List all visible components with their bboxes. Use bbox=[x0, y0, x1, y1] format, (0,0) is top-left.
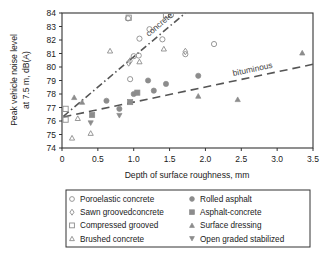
y-axis-title-line2: at 7.5 m, dB(A) bbox=[21, 51, 31, 109]
data-point-open-graded-stabilized bbox=[117, 113, 122, 118]
legend-label: Asphalt-concrete bbox=[200, 208, 262, 217]
y-axis-ticks: 7475767778798081828384 bbox=[47, 8, 62, 153]
y-tick-label: 79 bbox=[47, 76, 57, 86]
data-point-brushed-concrete bbox=[137, 59, 142, 64]
legend-marker-filled-circle bbox=[190, 197, 195, 202]
y-tick-label: 75 bbox=[47, 130, 57, 140]
data-point-poroelastic-concrete bbox=[136, 53, 141, 58]
data-point-rolled-asphalt bbox=[117, 106, 122, 111]
x-tick-label: 1.0 bbox=[128, 154, 140, 164]
y-tick-label: 77 bbox=[47, 103, 57, 113]
x-tick-label: 2.0 bbox=[200, 154, 212, 164]
data-point-rolled-asphalt bbox=[104, 98, 109, 103]
data-point-brushed-concrete bbox=[88, 131, 93, 136]
trendline-label-bituminous: bituminous bbox=[232, 60, 274, 78]
data-point-surface-dressing bbox=[79, 100, 84, 105]
data-point-poroelastic-concrete bbox=[211, 41, 216, 46]
legend-marker-open-diamond bbox=[70, 209, 74, 215]
y-tick-label: 74 bbox=[47, 143, 57, 153]
legend-label: Open graded stabilized bbox=[200, 235, 285, 244]
trendlines bbox=[63, 13, 313, 117]
legend-label: Rolled asphalt bbox=[200, 195, 253, 204]
data-point-compressed-grooved bbox=[63, 117, 68, 122]
data-point-surface-dressing bbox=[235, 97, 240, 102]
legend-marker-open-square bbox=[70, 223, 75, 228]
data-point-brushed-concrete bbox=[75, 116, 80, 121]
trendline-bituminous bbox=[63, 64, 313, 117]
data-point-surface-dressing bbox=[72, 95, 77, 100]
data-point-poroelastic-concrete bbox=[160, 37, 165, 42]
y-tick-label: 76 bbox=[47, 116, 57, 126]
data-point-rolled-asphalt bbox=[151, 88, 156, 93]
legend-items: Poroelastic concreteRolled asphaltSawn g… bbox=[70, 195, 285, 244]
x-axis-title: Depth of surface roughness, mm bbox=[125, 170, 250, 180]
data-point-asphalt-concrete bbox=[90, 112, 95, 117]
y-tick-label: 84 bbox=[47, 8, 57, 18]
trendline-labels: concretebituminous bbox=[144, 10, 274, 78]
x-tick-label: 2.5 bbox=[235, 154, 247, 164]
legend-marker-filled-triangle-up bbox=[190, 223, 195, 227]
y-tick-label: 83 bbox=[47, 22, 57, 32]
x-tick-label: 3.0 bbox=[271, 154, 283, 164]
y-tick-label: 81 bbox=[47, 49, 57, 59]
data-point-open-graded-stabilized bbox=[88, 121, 93, 126]
data-point-brushed-concrete bbox=[69, 135, 74, 140]
data-point-surface-dressing bbox=[196, 94, 201, 99]
y-axis-title-line1: Peak vehicle noise level bbox=[9, 34, 19, 126]
x-tick-label: 0 bbox=[60, 154, 65, 164]
legend-label: Poroelastic concrete bbox=[80, 195, 155, 204]
legend-label: Surface dressing bbox=[200, 221, 262, 230]
chart-figure: Peak vehicle noise level at 7.5 m, dB(A)… bbox=[0, 0, 326, 253]
data-points bbox=[63, 12, 305, 140]
y-tick-label: 82 bbox=[47, 35, 57, 45]
x-axis-ticks: 00.51.01.52.02.53.03.5 bbox=[60, 148, 320, 164]
legend-marker-filled-square bbox=[190, 210, 195, 215]
data-point-poroelastic-concrete bbox=[128, 77, 133, 82]
plot-frame bbox=[62, 13, 313, 148]
data-point-rolled-asphalt bbox=[196, 73, 201, 78]
legend-marker-open-circle bbox=[70, 197, 75, 202]
legend-marker-filled-triangle-down bbox=[190, 237, 195, 241]
data-point-asphalt-concrete bbox=[135, 90, 140, 95]
data-point-brushed-concrete bbox=[107, 48, 112, 53]
data-point-brushed-concrete bbox=[161, 46, 166, 51]
scatter-chart: Peak vehicle noise level at 7.5 m, dB(A)… bbox=[0, 0, 326, 253]
x-tick-label: 3.5 bbox=[307, 154, 319, 164]
legend-marker-open-triangle-up bbox=[70, 236, 75, 240]
legend-label: Sawn groovedconcrete bbox=[80, 208, 164, 217]
data-point-rolled-asphalt bbox=[163, 81, 168, 86]
y-tick-label: 80 bbox=[47, 62, 57, 72]
y-tick-label: 78 bbox=[47, 89, 57, 99]
legend-label: Compressed grooved bbox=[80, 221, 159, 230]
data-point-poroelastic-concrete bbox=[137, 36, 142, 41]
x-tick-label: 1.5 bbox=[164, 154, 176, 164]
data-point-asphalt-concrete bbox=[128, 100, 133, 105]
data-point-rolled-asphalt bbox=[145, 78, 150, 83]
x-tick-label: 0.5 bbox=[92, 154, 104, 164]
data-point-compressed-grooved bbox=[63, 106, 68, 111]
legend-label: Brushed concrete bbox=[80, 235, 145, 244]
y-axis-title: Peak vehicle noise level at 7.5 m, dB(A) bbox=[9, 34, 31, 126]
data-point-surface-dressing bbox=[300, 50, 305, 55]
